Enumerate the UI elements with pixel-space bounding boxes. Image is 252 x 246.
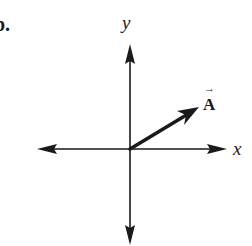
vector-a-overarrow-icon: → [204,82,215,94]
x-axis-right-arrowhead-icon [207,144,227,154]
part-label: b. [0,13,10,35]
x-axis-left-arrowhead-icon [37,144,57,154]
vector-a-label: A [203,95,216,114]
vector-a-shaft [130,114,188,149]
diagram-svg: b. x y → A [0,0,252,246]
vector-a [130,107,199,149]
vector-a-arrowhead-icon [177,107,199,125]
y-axis-label: y [120,12,131,33]
vector-diagram: b. x y → A [0,0,252,246]
y-axis-up-arrowhead-icon [125,44,135,64]
x-axis-label: x [232,138,242,159]
y-axis-down-arrowhead-icon [125,225,135,245]
y-axis [125,44,135,245]
